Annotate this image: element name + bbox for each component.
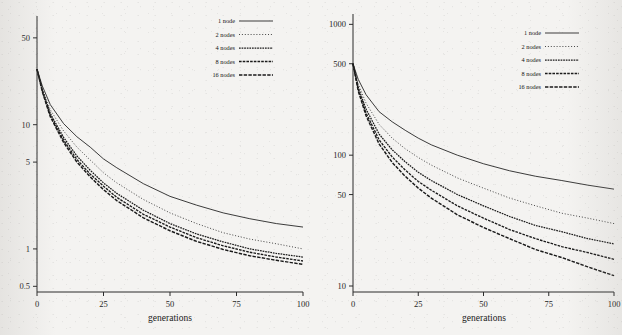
left-legend-label: 8 nodes [216, 58, 236, 65]
left-x-tick-label: 75 [232, 299, 241, 309]
left-legend-label: 2 nodes [216, 31, 236, 38]
right-x-axis-title: generations [462, 313, 506, 323]
right-curves [353, 64, 614, 276]
right-y-tick-label: 50 [338, 190, 347, 200]
right-legend-label: 16 nodes [518, 83, 541, 90]
right-curve-16-nodes [353, 64, 614, 276]
left-legend-label: 16 nodes [212, 71, 235, 78]
right-legend-label: 4 nodes [522, 56, 542, 63]
left-x-ticks: 0255075100 [35, 292, 310, 309]
left-x-tick-label: 25 [99, 299, 108, 309]
left-legend-label: 1 node [218, 17, 235, 24]
left-curve-8-nodes [37, 69, 303, 261]
right-plot-canvas: 10005001005010 0255075100 1 node2 nodes4… [311, 0, 622, 335]
left-y-tick-label: 5 [26, 157, 30, 167]
right-curve-4-nodes [353, 64, 614, 244]
left-x-tick-label: 0 [35, 299, 39, 309]
left-y-tick-label: 10 [22, 120, 31, 130]
left-curve-4-nodes [37, 69, 303, 257]
left-panel: 5010510.5 0255075100 1 node2 nodes4 node… [0, 0, 311, 335]
right-x-tick-label: 50 [479, 299, 488, 309]
right-y-tick-label: 500 [333, 59, 346, 69]
left-x-tick-label: 100 [297, 299, 310, 309]
left-curve-1-node [37, 69, 303, 227]
left-legend-label: 4 nodes [216, 44, 236, 51]
left-plot-canvas: 5010510.5 0255075100 1 node2 nodes4 node… [0, 0, 311, 335]
left-x-tick-label: 50 [166, 299, 175, 309]
right-legend: 1 node2 nodes4 nodes8 nodes16 nodes [518, 29, 579, 90]
right-x-tick-label: 25 [414, 299, 423, 309]
left-curve-2-nodes [37, 69, 303, 249]
right-panel: 10005001005010 0255075100 1 node2 nodes4… [311, 0, 622, 335]
left-curve-16-nodes [37, 69, 303, 264]
right-axes [353, 14, 614, 292]
right-x-ticks: 0255075100 [351, 292, 621, 309]
right-y-tick-label: 10 [338, 281, 347, 291]
right-y-ticks: 10005001005010 [329, 19, 353, 291]
left-legend: 1 node2 nodes4 nodes8 nodes16 nodes [212, 17, 273, 78]
left-curves [37, 69, 303, 264]
right-y-tick-label: 1000 [329, 19, 346, 29]
right-y-tick-label: 100 [333, 150, 346, 160]
left-y-tick-label: 1 [26, 244, 30, 254]
right-legend-label: 2 nodes [522, 43, 542, 50]
right-x-tick-label: 100 [608, 299, 621, 309]
left-y-tick-label: 0.5 [19, 281, 30, 291]
right-legend-label: 8 nodes [522, 70, 542, 77]
right-x-tick-label: 0 [351, 299, 355, 309]
right-curve-1-node [353, 64, 614, 189]
left-x-axis-title: generations [148, 313, 192, 323]
right-legend-label: 1 node [524, 29, 541, 36]
figure-two-panel-log-charts: 5010510.5 0255075100 1 node2 nodes4 node… [0, 0, 622, 335]
left-y-tick-label: 50 [22, 33, 31, 43]
left-y-ticks: 5010510.5 [19, 33, 37, 291]
right-x-tick-label: 75 [545, 299, 554, 309]
